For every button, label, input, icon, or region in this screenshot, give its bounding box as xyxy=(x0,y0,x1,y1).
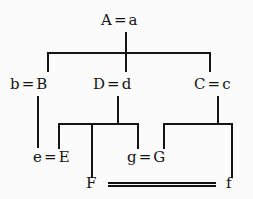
node-b-B: b = B xyxy=(10,77,48,92)
node-A-a: A = a xyxy=(101,13,138,28)
connector-root-stem xyxy=(125,32,127,54)
connector-Dd-sibship-bar xyxy=(58,123,139,125)
connector-drop-Cc-to-f xyxy=(231,123,233,178)
connector-drop-Dd-to-F xyxy=(91,123,93,178)
connector-drop-to-bB xyxy=(47,52,49,72)
node-D-d: D = d xyxy=(93,77,132,92)
connector-gen1-sibship-bar xyxy=(47,52,211,54)
connector-Cc-sibship-bar xyxy=(163,123,233,125)
node-f: f xyxy=(226,176,232,191)
node-C-c: C = c xyxy=(194,77,231,92)
connector-drop-to-Dd xyxy=(125,52,127,72)
connector-drop-Cc-to-gG xyxy=(163,123,165,149)
node-F: F xyxy=(86,176,97,191)
connector-Cc-stem xyxy=(217,96,219,124)
node-e-E: e = E xyxy=(33,150,70,165)
pedigree-diagram: A = a b = B D = d C = c e = E g = G F f xyxy=(0,0,253,199)
connector-drop-Dd-to-gG xyxy=(137,123,139,149)
connector-Dd-stem xyxy=(117,96,119,124)
connector-drop-to-Cc xyxy=(209,52,211,72)
node-g-G: g = G xyxy=(127,150,166,165)
connector-bB-to-eE xyxy=(37,96,39,148)
connector-F-f-mating-line xyxy=(108,182,216,187)
connector-drop-Dd-to-eE xyxy=(58,123,60,149)
